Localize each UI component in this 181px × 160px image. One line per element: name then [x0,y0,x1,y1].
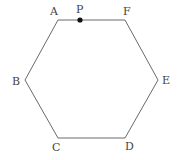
hexagon-diagram: A P F B E C D [0,0,181,160]
vertex-label-e: E [162,74,170,87]
vertex-label-b: B [12,75,20,88]
vertex-label-f: F [123,5,131,18]
point-label-p: P [76,3,84,16]
vertex-label-c: C [52,141,60,154]
point-p-marker [77,17,82,22]
vertex-label-a: A [49,5,59,18]
hexagon-outline [25,20,158,138]
vertex-label-d: D [125,140,134,153]
